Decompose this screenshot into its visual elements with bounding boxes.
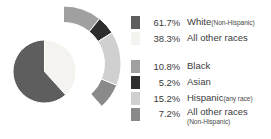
legend-swatch-cell bbox=[131, 58, 146, 74]
inner-pie-group bbox=[13, 40, 76, 103]
legend-label: Hispanic(any race) bbox=[180, 92, 271, 104]
color-swatch-icon bbox=[131, 16, 140, 29]
legend-label-text: Asian bbox=[187, 76, 211, 87]
legend-group-breakdown: 10.8% Black 5.2% Asian 15.2% bbox=[131, 58, 271, 129]
chart-legend: 61.7% White(Non-Hispanic) 38.3% All othe… bbox=[131, 14, 271, 136]
legend-row: 38.3% All other races bbox=[131, 30, 271, 46]
color-swatch-icon bbox=[131, 108, 140, 121]
legend-row: 10.8% Black bbox=[131, 58, 271, 74]
legend-label: Asian bbox=[180, 76, 271, 88]
legend-percent: 7.2% bbox=[146, 107, 180, 120]
legend-percent: 15.2% bbox=[146, 93, 180, 104]
legend-row: 7.2% All other races (Non-Hispanic) bbox=[131, 106, 271, 129]
legend-percent: 5.2% bbox=[146, 77, 180, 88]
legend-swatch-cell bbox=[131, 107, 146, 121]
legend-label-text: All other races bbox=[187, 106, 248, 117]
ring-segment bbox=[98, 33, 121, 86]
legend-label-note: (Non-Hispanic) bbox=[187, 117, 271, 126]
nested-pie-chart bbox=[0, 0, 126, 139]
legend-label: White(Non-Hispanic) bbox=[180, 16, 271, 28]
legend-percent: 61.7% bbox=[146, 17, 180, 28]
legend-label-text: White bbox=[187, 16, 211, 27]
legend-label: Black bbox=[180, 60, 271, 72]
legend-swatch-cell bbox=[131, 30, 146, 46]
legend-row: 15.2% Hispanic(any race) bbox=[131, 90, 271, 106]
legend-label: All other races bbox=[180, 32, 271, 44]
legend-row: 5.2% Asian bbox=[131, 74, 271, 90]
color-swatch-icon bbox=[131, 76, 140, 89]
legend-group-top-level: 61.7% White(Non-Hispanic) 38.3% All othe… bbox=[131, 14, 271, 46]
legend-percent: 38.3% bbox=[146, 33, 180, 44]
legend-label: All other races (Non-Hispanic) bbox=[180, 107, 271, 126]
population-race-pie-figure: 61.7% White(Non-Hispanic) 38.3% All othe… bbox=[0, 0, 271, 139]
legend-percent: 10.8% bbox=[146, 61, 180, 72]
legend-row: 61.7% White(Non-Hispanic) bbox=[131, 14, 271, 30]
color-swatch-icon bbox=[131, 60, 140, 73]
legend-swatch-cell bbox=[131, 74, 146, 90]
legend-label-note: (Non-Hispanic) bbox=[211, 19, 254, 26]
color-swatch-icon bbox=[131, 92, 140, 105]
color-swatch-icon bbox=[131, 32, 140, 45]
legend-label-text: All other races bbox=[187, 32, 248, 43]
legend-label-text: Black bbox=[187, 60, 210, 71]
legend-label-note: (any race) bbox=[223, 95, 252, 102]
legend-swatch-cell bbox=[131, 14, 146, 30]
chart-area bbox=[0, 0, 126, 139]
legend-swatch-cell bbox=[131, 90, 146, 106]
legend-label-text: Hispanic bbox=[187, 92, 223, 103]
